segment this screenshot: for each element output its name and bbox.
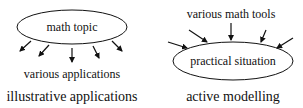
tool-arrows	[168, 23, 293, 48]
diagram-canvas: math topic various applications illustra…	[0, 0, 303, 108]
active-modelling-caption: active modelling	[186, 89, 280, 104]
various-math-tools-label: various math tools	[187, 7, 276, 21]
left-diagram: math topic various applications illustra…	[6, 10, 137, 104]
various-applications-label: various applications	[24, 67, 121, 81]
right-diagram: various math tools practical situation a…	[168, 7, 293, 104]
illustrative-applications-caption: illustrative applications	[6, 89, 137, 104]
practical-situation-label: practical situation	[190, 54, 276, 68]
math-topic-label: math topic	[47, 20, 98, 34]
